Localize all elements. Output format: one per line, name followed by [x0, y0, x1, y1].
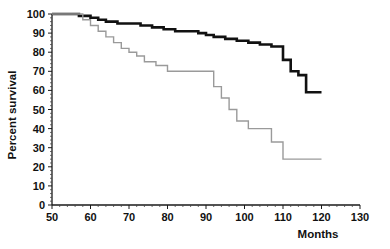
- y-axis-title: Percent survival: [6, 71, 18, 160]
- y-tick-label: 70: [33, 65, 45, 77]
- axis-lines: [52, 14, 360, 205]
- y-tick-label: 90: [33, 27, 45, 39]
- x-tick-label: 100: [235, 211, 253, 223]
- y-tick-label: 30: [33, 142, 45, 154]
- x-tick-label: 80: [161, 211, 173, 223]
- x-tick-label: 110: [274, 211, 292, 223]
- x-tick-label: 130: [351, 211, 369, 223]
- y-tick-label: 20: [33, 161, 45, 173]
- plot-axes: 5060708090100110120130 01020304050607080…: [27, 8, 370, 223]
- x-axis-ticks: [52, 205, 360, 209]
- y-tick-label: 60: [33, 84, 45, 96]
- x-tick-label: 90: [200, 211, 212, 223]
- series-gray-curve: [52, 14, 322, 159]
- x-axis-title: Months: [298, 228, 339, 240]
- y-tick-label: 10: [33, 180, 45, 192]
- chart-figure: 5060708090100110120130 01020304050607080…: [0, 0, 390, 249]
- y-tick-label: 40: [33, 123, 45, 135]
- y-axis-tick-labels: 0102030405060708090100: [27, 8, 45, 211]
- x-tick-label: 120: [312, 211, 330, 223]
- y-tick-label: 50: [33, 104, 45, 116]
- x-tick-label: 50: [46, 211, 58, 223]
- x-tick-label: 60: [84, 211, 96, 223]
- x-tick-label: 70: [123, 211, 135, 223]
- y-tick-label: 0: [39, 199, 45, 211]
- y-tick-label: 80: [33, 46, 45, 58]
- x-axis-tick-labels: 5060708090100110120130: [46, 211, 369, 223]
- y-tick-label: 100: [27, 8, 45, 20]
- data-series-layer: [52, 14, 322, 159]
- survival-plot-svg: 5060708090100110120130 01020304050607080…: [0, 0, 390, 249]
